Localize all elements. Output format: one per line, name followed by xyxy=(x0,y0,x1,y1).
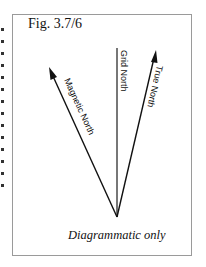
figure-caption: Diagrammatic only xyxy=(68,228,166,243)
magnetic-north-arrowhead-icon xyxy=(49,67,57,80)
north-directions-diagram: Magnetic North Grid North True North xyxy=(0,0,206,267)
true-north-label: True North xyxy=(145,65,164,109)
grid-north-label: Grid North xyxy=(119,50,129,92)
true-north-arrowhead-icon xyxy=(151,50,158,63)
magnetic-north-arrow xyxy=(52,74,117,217)
